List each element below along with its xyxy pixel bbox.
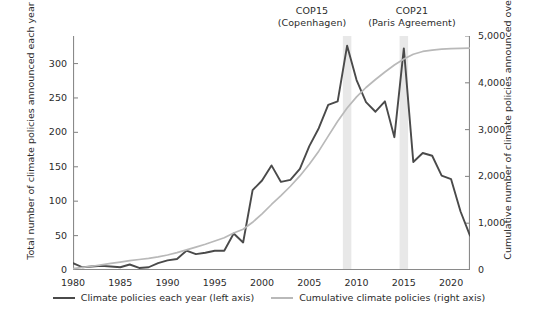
axis-lines — [73, 36, 470, 270]
chart-legend: Climate policies each year (left axis) C… — [0, 292, 538, 303]
legend-label-cumulative: Cumulative climate policies (right axis) — [299, 292, 485, 303]
y-axis-label-left: Total number of climate policies announc… — [25, 40, 37, 260]
legend-label-annual: Climate policies each year (left axis) — [81, 292, 254, 303]
y-tick-left-50: 50 — [25, 230, 67, 241]
legend-swatch-cumulative — [271, 297, 293, 299]
x-tick-2005: 2005 — [288, 277, 330, 288]
event-bands — [343, 36, 408, 270]
annotation-cop21-line1: COP21 — [350, 5, 474, 17]
axis-ticks — [73, 36, 470, 270]
y-tick-left-0: 0 — [25, 264, 67, 275]
x-tick-1990: 1990 — [147, 277, 189, 288]
x-tick-2000: 2000 — [241, 277, 283, 288]
x-tick-1995: 1995 — [194, 277, 236, 288]
annotation-cop21: COP21 (Paris Agreement) — [350, 5, 474, 29]
x-tick-2015: 2015 — [383, 277, 425, 288]
y-tick-right-5000: 5,000 — [478, 30, 522, 41]
plot-svg — [73, 36, 470, 270]
plot-area — [73, 36, 470, 270]
legend-swatch-annual — [53, 297, 75, 299]
x-tick-2020: 2020 — [430, 277, 472, 288]
y-tick-left-250: 250 — [25, 92, 67, 103]
y-tick-left-300: 300 — [25, 58, 67, 69]
y-tick-left-200: 200 — [25, 126, 67, 137]
y-tick-right-2000: 2,000 — [478, 170, 522, 181]
y-tick-right-1000: 1,000 — [478, 217, 522, 228]
legend-item-cumulative: Cumulative climate policies (right axis) — [271, 292, 485, 303]
y-tick-left-100: 100 — [25, 195, 67, 206]
y-tick-right-3000: 3,000 — [478, 124, 522, 135]
x-tick-1985: 1985 — [99, 277, 141, 288]
y-tick-right-0: 0 — [478, 264, 522, 275]
x-tick-1980: 1980 — [52, 277, 94, 288]
chart-figure: COP15 (Copenhagen) COP21 (Paris Agreemen… — [0, 0, 538, 320]
data-series — [73, 46, 470, 269]
annotation-cop21-line2: (Paris Agreement) — [350, 17, 474, 29]
x-tick-2010: 2010 — [336, 277, 378, 288]
legend-item-annual: Climate policies each year (left axis) — [53, 292, 254, 303]
y-tick-right-4000: 4,000 — [478, 77, 522, 88]
y-tick-left-150: 150 — [25, 161, 67, 172]
